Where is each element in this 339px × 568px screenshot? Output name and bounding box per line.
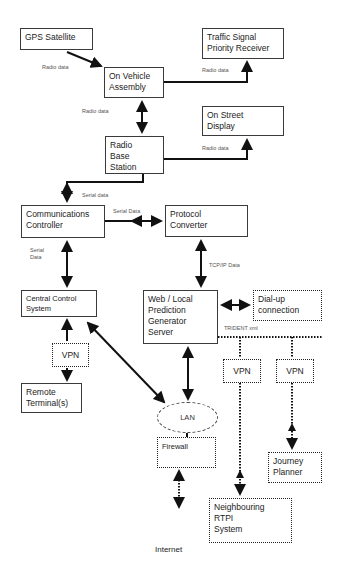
neighbouring-rtpi-node: Neighbouring RTPI System: [209, 498, 292, 543]
on-street-display-node: On Street Display: [202, 106, 284, 136]
node-text: Planner: [273, 467, 317, 478]
node-text: Neighbouring: [214, 502, 287, 513]
node-text: RTPI: [214, 513, 287, 524]
node-text: Central Control: [26, 294, 92, 304]
node-text: Base: [110, 151, 159, 162]
node-text: connection: [258, 305, 317, 316]
node-text: On Vehicle: [109, 71, 159, 82]
edge-label-protocol-web: TCP/IP Data: [209, 262, 240, 269]
node-text: Terminal(s): [26, 398, 77, 409]
protocol-converter-node: Protocol Converter: [165, 205, 248, 237]
node-text: System: [214, 524, 287, 535]
vpn-middle-node: VPN: [223, 359, 261, 383]
node-text: LAN: [180, 413, 195, 422]
communications-controller-node: Communications Controller: [21, 205, 105, 238]
node-text: Firewall: [162, 441, 211, 452]
node-text: On Street: [207, 110, 279, 121]
edge-label-vehicle-base: Radio data: [82, 108, 109, 115]
edge-label-gps-vehicle: Radio data: [42, 64, 69, 71]
node-text: Journey: [273, 456, 317, 467]
node-text: Prediction: [148, 305, 213, 316]
node-text: Priority Receiver: [207, 43, 279, 54]
lan-node: LAN: [157, 402, 218, 433]
node-text: Radio: [110, 140, 159, 151]
node-text: VPN: [62, 350, 79, 361]
edge-label-comms-protocol: Serial Data: [113, 208, 140, 215]
internet-label: Internet: [155, 545, 182, 554]
edge-label-trident: TRIDENT xml: [224, 325, 258, 332]
firewall-node: Firewall: [157, 437, 216, 468]
node-text: Communications: [26, 209, 100, 220]
node-text: Assembly: [109, 82, 159, 93]
node-text: GPS Satellite: [25, 32, 88, 43]
remote-terminals-node: Remote Terminal(s): [21, 383, 82, 413]
node-text: Dial-up: [258, 294, 317, 305]
edge-label-base-street: Radio data: [202, 145, 229, 152]
node-text: Converter: [170, 220, 243, 231]
vpn-right-node: VPN: [276, 359, 314, 383]
node-text: VPN: [233, 366, 250, 377]
node-text: Remote: [26, 387, 77, 398]
edge-label-vehicle-traffic: Radio data: [202, 67, 229, 74]
edge-label-comms-central-2: Data: [30, 254, 42, 261]
node-text: Controller: [26, 220, 100, 231]
node-text: Station: [110, 162, 159, 173]
node-text: Display: [207, 121, 279, 132]
node-text: Protocol: [170, 209, 243, 220]
edge-gps-vehicle: [67, 52, 101, 66]
dialup-connection-node: Dial-up connection: [253, 290, 322, 321]
node-text: Traffic Signal: [207, 32, 279, 43]
edge-label-base-comms: Serial data: [82, 192, 108, 199]
node-text: VPN: [286, 366, 303, 377]
gps-satellite-node: GPS Satellite: [20, 28, 93, 50]
node-text: Server: [148, 327, 213, 338]
central-control-system-node: Central Control System: [21, 290, 97, 317]
node-text: Generator: [148, 316, 213, 327]
edge-label-comms-central-1: Serial: [30, 247, 44, 254]
vpn-left-node: VPN: [52, 343, 89, 367]
journey-planner-node: Journey Planner: [268, 452, 322, 483]
traffic-signal-receiver-node: Traffic Signal Priority Receiver: [202, 28, 284, 59]
node-text: Web / Local: [148, 294, 213, 305]
on-vehicle-assembly-node: On Vehicle Assembly: [104, 67, 164, 98]
prediction-server-node: Web / Local Prediction Generator Server: [143, 290, 218, 344]
node-text: System: [26, 304, 92, 314]
radio-base-station-node: Radio Base Station: [105, 136, 164, 174]
